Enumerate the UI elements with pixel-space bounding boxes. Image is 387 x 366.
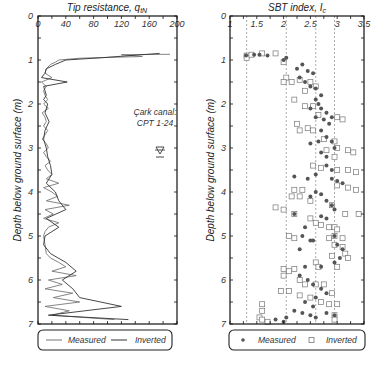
- inverted-point: [353, 170, 358, 175]
- x-tick-label: 120: [114, 19, 129, 29]
- measured-point: [311, 282, 315, 286]
- measured-point: [306, 69, 310, 73]
- measured-point: [341, 181, 345, 185]
- measured-point: [319, 150, 323, 154]
- measured-point: [330, 168, 334, 172]
- inverted-point: [356, 212, 361, 217]
- inverted-point: [335, 115, 340, 120]
- inverted-point: [281, 80, 286, 85]
- measured-point: [335, 243, 339, 247]
- measured-point: [308, 313, 312, 317]
- inverted-point: [335, 227, 340, 232]
- measured-point: [324, 199, 328, 203]
- measured-point: [319, 192, 323, 196]
- inverted-point: [329, 253, 334, 258]
- inverted-point: [332, 317, 337, 322]
- inverted-point: [286, 234, 291, 239]
- y-tick-label: 4: [28, 187, 33, 197]
- inverted-line: [42, 53, 160, 319]
- inverted-point: [345, 185, 350, 190]
- left-tick-marks: [38, 16, 177, 324]
- measured-point: [322, 117, 326, 121]
- measured-point: [338, 256, 342, 260]
- inverted-point: [303, 282, 308, 287]
- measured-point: [333, 208, 337, 212]
- y-tick-label: 0: [221, 11, 226, 21]
- left-panel-title: Tip resistance, qtN: [67, 2, 148, 14]
- inverted-point: [292, 267, 297, 272]
- inverted-point: [273, 205, 278, 210]
- inverted-point: [289, 80, 294, 85]
- right-legend-inverted: Inverted: [326, 335, 357, 345]
- measured-point: [316, 139, 320, 143]
- right-y-tick-labels: 01234567: [220, 11, 227, 329]
- inverted-point: [311, 128, 316, 133]
- measured-point: [319, 265, 323, 269]
- measured-point: [324, 164, 328, 168]
- measured-point: [244, 54, 248, 58]
- measured-point: [252, 53, 256, 57]
- inverted-point: [332, 154, 337, 159]
- measured-point: [303, 225, 307, 229]
- inverted-point: [340, 236, 345, 241]
- measured-point: [300, 62, 304, 66]
- measured-point: [306, 278, 310, 282]
- y-tick-label: 1: [28, 55, 33, 65]
- y-tick-label: 6: [221, 275, 226, 285]
- measured-point: [333, 234, 337, 238]
- inverted-point: [335, 302, 340, 307]
- inverted-point: [295, 121, 300, 126]
- measured-point: [341, 247, 345, 251]
- inverted-point: [327, 225, 332, 230]
- right-panel-title: SBT index, Ic: [268, 2, 326, 14]
- measured-point: [319, 128, 323, 132]
- right-plot-series: [244, 51, 361, 324]
- inverted-point: [335, 183, 340, 188]
- inverted-point: [319, 223, 324, 228]
- measured-point: [308, 238, 312, 242]
- measured-point: [314, 98, 318, 102]
- measured-point: [308, 106, 312, 110]
- measured-point: [319, 287, 323, 291]
- inverted-point: [345, 168, 350, 173]
- measured-point: [298, 247, 302, 251]
- inverted-point: [308, 80, 313, 85]
- measured-point: [324, 155, 328, 159]
- measured-point: [314, 172, 318, 176]
- measured-point: [324, 291, 328, 295]
- measured-point: [298, 76, 302, 80]
- measured-point: [314, 87, 318, 91]
- left-legend-measured: Measured: [68, 335, 106, 345]
- inverted-point: [281, 267, 286, 272]
- inverted-point: [292, 97, 297, 102]
- water-table-icon: [155, 147, 165, 157]
- inverted-point: [260, 308, 265, 313]
- y-tick-label: 5: [28, 231, 34, 241]
- measured-point: [266, 54, 270, 58]
- measured-point: [324, 216, 328, 220]
- inverted-point: [278, 289, 283, 294]
- measured-point: [330, 139, 334, 143]
- y-tick-label: 7: [221, 319, 227, 329]
- inverted-point: [343, 212, 348, 217]
- measured-point: [300, 234, 304, 238]
- x-tick-label: 2: [280, 19, 286, 29]
- inverted-point: [319, 165, 324, 170]
- measured-point: [295, 67, 299, 71]
- measured-point: [330, 115, 334, 119]
- inverted-point: [321, 282, 326, 287]
- measured-point: [284, 315, 288, 319]
- inverted-point: [289, 194, 294, 199]
- inverted-point: [335, 264, 340, 269]
- measured-point: [257, 53, 261, 57]
- inverted-point: [297, 278, 302, 283]
- measured-point: [306, 177, 310, 181]
- measured-point: [308, 194, 312, 198]
- measured-point: [311, 71, 315, 75]
- inverted-point: [345, 148, 350, 153]
- x-tick-label: 160: [142, 19, 157, 29]
- measured-point: [330, 203, 334, 207]
- x-tick-label: 40: [61, 19, 71, 29]
- y-tick-label: 3: [28, 143, 33, 153]
- left-panel: Tip resistance, qtN 04080120160200 01234…: [12, 2, 185, 350]
